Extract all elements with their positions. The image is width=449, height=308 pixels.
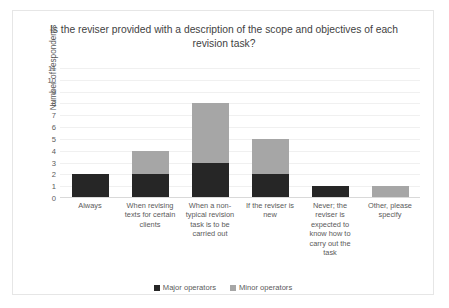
gridline (60, 163, 420, 164)
gridline (60, 174, 420, 175)
gridline (60, 115, 420, 116)
chart-title: Is the reviser provided with a descripti… (39, 23, 409, 51)
x-axis-category-label: When a non-typical revision task is to b… (182, 201, 238, 239)
x-axis-category-label: Other, please specify (362, 201, 418, 220)
y-axis-tick-label: 4 (52, 146, 56, 155)
bar-segment-major-operators[interactable] (132, 174, 169, 198)
legend-label: Minor operators (239, 283, 292, 292)
bar-column[interactable] (132, 151, 169, 198)
gridline (60, 139, 420, 140)
x-axis-category-label: Always (62, 201, 118, 210)
y-axis-tick-label: 11 (48, 64, 56, 73)
bar-segment-minor-operators[interactable] (132, 151, 169, 175)
bar-segment-major-operators[interactable] (192, 163, 229, 198)
y-axis-tick-label: 8 (52, 99, 56, 108)
chart-legend: Major operatorsMinor operators (13, 283, 433, 292)
gridline (60, 186, 420, 187)
gridline (60, 68, 420, 69)
legend-swatch-icon (154, 285, 160, 291)
legend-swatch-icon (230, 285, 236, 291)
bar-segment-minor-operators[interactable] (252, 139, 289, 174)
gridline (60, 92, 420, 93)
bar-segment-minor-operators[interactable] (192, 103, 229, 162)
x-axis-category-labels: AlwaysWhen revising texts for certain cl… (60, 201, 420, 273)
bar-segment-major-operators[interactable] (72, 174, 109, 198)
y-axis-tick-label: 7 (52, 111, 56, 120)
plot-area (60, 68, 420, 198)
bar-column[interactable] (252, 139, 289, 198)
bar-segment-major-operators[interactable] (252, 174, 289, 198)
gridline (60, 151, 420, 152)
legend-item[interactable]: Minor operators (230, 283, 292, 292)
x-axis-category-label: Never; the reviser is expected to know h… (302, 201, 358, 257)
bar-column[interactable] (192, 103, 229, 198)
y-axis-tick-label: 10 (48, 75, 56, 84)
y-axis-tick-label: 9 (52, 87, 56, 96)
legend-item[interactable]: Major operators (154, 283, 216, 292)
x-axis-line (60, 197, 420, 198)
y-axis-tick-label: 0 (52, 194, 56, 203)
legend-label: Major operators (163, 283, 216, 292)
bar-column[interactable] (72, 174, 109, 198)
x-axis-category-label: When revising texts for certain clients (122, 201, 178, 229)
y-axis-tick-label: 3 (52, 158, 56, 167)
chart-container: Is the reviser provided with a descripti… (12, 10, 434, 295)
y-axis-tick-label: 2 (52, 170, 56, 179)
y-axis-tick-label: 6 (52, 123, 56, 132)
y-axis-tick-label: 5 (52, 134, 56, 143)
gridline (60, 80, 420, 81)
gridline (60, 103, 420, 104)
x-axis-category-label: If the reviser is new (242, 201, 298, 220)
gridline (60, 127, 420, 128)
y-axis-tick-label: 1 (52, 182, 56, 191)
